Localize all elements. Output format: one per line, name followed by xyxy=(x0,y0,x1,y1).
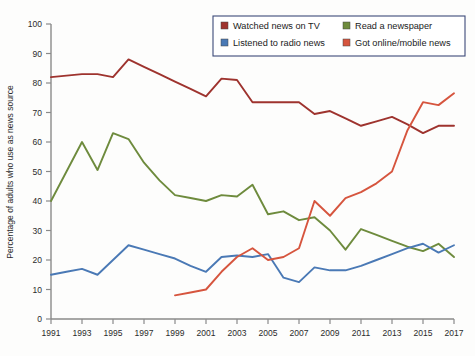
series-line-watched-news-on-tv xyxy=(51,59,454,133)
legend-swatch-2 xyxy=(343,22,350,29)
y-tick-label: 60 xyxy=(33,137,43,147)
x-tick-label: 2007 xyxy=(290,328,309,338)
chart-canvas: 0102030405060708090100 19911993199519971… xyxy=(0,0,475,356)
x-tick-label: 2009 xyxy=(321,328,340,338)
legend-swatch-3 xyxy=(221,39,228,46)
y-tick-label: 80 xyxy=(33,78,43,88)
x-tick-label: 1997 xyxy=(135,328,154,338)
y-tick-label: 30 xyxy=(33,226,43,236)
y-axis-ticks: 0102030405060708090100 xyxy=(28,19,51,324)
x-tick-label: 1999 xyxy=(166,328,185,338)
y-tick-label: 70 xyxy=(33,108,43,118)
chart-legend: Watched news on TVRead a newspaperListen… xyxy=(213,16,465,56)
axes: 0102030405060708090100 19911993199519971… xyxy=(28,19,464,338)
x-tick-label: 2017 xyxy=(445,328,464,338)
x-tick-label: 2001 xyxy=(197,328,216,338)
data-series-group xyxy=(51,59,454,295)
series-line-read-a-newspaper xyxy=(51,133,454,257)
legend-swatch-4 xyxy=(343,39,350,46)
y-tick-label: 40 xyxy=(33,196,43,206)
legend-label-3: Listened to radio news xyxy=(233,38,325,48)
x-tick-label: 1995 xyxy=(104,328,123,338)
x-tick-label: 2015 xyxy=(414,328,433,338)
x-axis-ticks: 1991199319951997199920012003200520072009… xyxy=(42,319,464,338)
x-tick-label: 2013 xyxy=(383,328,402,338)
y-tick-label: 100 xyxy=(28,19,42,29)
x-tick-label: 1993 xyxy=(73,328,92,338)
news-source-line-chart: 0102030405060708090100 19911993199519971… xyxy=(0,0,475,356)
series-line-got-online-mobile-news xyxy=(175,93,454,295)
x-tick-label: 2011 xyxy=(352,328,371,338)
y-axis-title: Percentage of adults who use as news sou… xyxy=(5,85,15,259)
legend-swatch-1 xyxy=(221,22,228,29)
y-tick-label: 0 xyxy=(37,314,42,324)
x-tick-label: 2005 xyxy=(259,328,278,338)
legend-label-2: Read a newspaper xyxy=(355,21,432,31)
legend-label-1: Watched news on TV xyxy=(233,21,321,31)
x-tick-label: 1991 xyxy=(42,328,61,338)
y-tick-label: 20 xyxy=(33,255,43,265)
y-tick-label: 10 xyxy=(33,285,43,295)
legend-label-4: Got online/mobile news xyxy=(355,38,451,48)
series-line-listened-to-radio-news xyxy=(51,244,454,282)
y-tick-label: 50 xyxy=(33,167,43,177)
y-tick-label: 90 xyxy=(33,49,43,59)
x-tick-label: 2003 xyxy=(228,328,247,338)
